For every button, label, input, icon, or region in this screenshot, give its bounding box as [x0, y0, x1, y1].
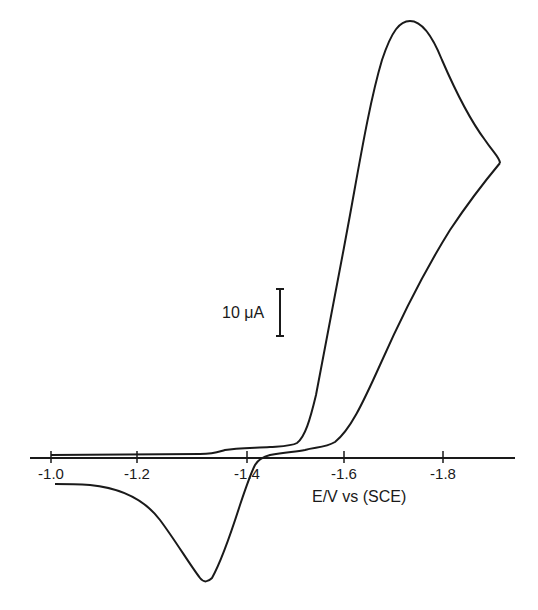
reverse-sweep-curve — [55, 163, 500, 581]
cyclic-voltammogram: -1.0 -1.2 -1.4 -1.6 -1.8 E/V vs (SCE) 10… — [0, 0, 538, 610]
current-scale-bar — [276, 289, 284, 336]
forward-sweep-curve — [51, 21, 500, 455]
tick-label: -1.6 — [331, 465, 357, 482]
x-axis-title: E/V vs (SCE) — [312, 488, 406, 505]
tick-label: -1.2 — [124, 465, 150, 482]
x-tick-labels: -1.0 -1.2 -1.4 -1.6 -1.8 — [38, 465, 456, 482]
scale-bar-label: 10 μA — [222, 304, 264, 321]
tick-label: -1.0 — [38, 465, 64, 482]
tick-label: -1.4 — [234, 465, 260, 482]
tick-label: -1.8 — [430, 465, 456, 482]
